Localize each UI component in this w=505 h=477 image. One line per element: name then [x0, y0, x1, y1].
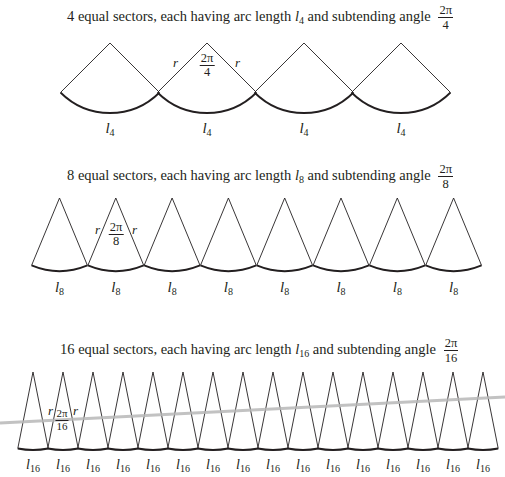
angle-label: 2π8 — [109, 221, 124, 247]
sector-radii — [32, 198, 88, 265]
angle-fraction: 2π8 — [438, 163, 453, 190]
fraction-denominator: 4 — [204, 66, 210, 78]
arc-symbol: l8 — [295, 167, 304, 183]
arc-symbol: l4 — [295, 8, 304, 24]
arc-length-label: l16 — [476, 457, 490, 474]
radius-label-left: r — [48, 403, 53, 419]
arc-length-label: l16 — [326, 457, 340, 474]
caption-middle: and subtending angle — [313, 341, 436, 357]
sector-arc — [426, 265, 482, 271]
sector-radii — [318, 372, 348, 449]
sector-arc — [138, 449, 168, 450]
arc-length-label: l16 — [26, 457, 40, 474]
sector-radii — [168, 372, 198, 449]
fraction-numerator: 2π — [200, 52, 215, 66]
sector-arc — [144, 265, 200, 271]
sector-arc — [352, 92, 451, 113]
angle-label: 2π16 — [55, 408, 68, 432]
arc-subscript: 4 — [299, 15, 304, 26]
angle-label: 2π4 — [200, 52, 215, 78]
sector-arc — [158, 92, 257, 113]
sector-radii — [138, 372, 168, 449]
sector-arc — [288, 449, 318, 450]
sector-radii — [108, 372, 138, 449]
sector-radii — [78, 372, 108, 449]
sector-arc — [369, 265, 425, 271]
sector-arc — [48, 449, 78, 450]
sector-arc — [348, 449, 378, 450]
arc-length-label: l16 — [446, 457, 460, 474]
sector-radii — [348, 372, 378, 449]
radius-label-right: r — [132, 222, 137, 238]
arc-length-label: l16 — [176, 457, 190, 474]
sector-arc — [78, 449, 108, 450]
arc-length-label: l8 — [55, 279, 64, 297]
caption-text: 4 equal sectors, each having arc length — [67, 8, 291, 24]
sector-radii — [426, 198, 482, 265]
fraction-numerator: 2π — [444, 337, 459, 351]
caption-row-2: 8 equal sectors, each having arc length … — [67, 163, 453, 190]
caption-text: 16 equal sectors, each having arc length — [60, 341, 292, 357]
sector-arc — [108, 449, 138, 450]
arc-length-label: l16 — [386, 457, 400, 474]
fraction-denominator: 8 — [443, 177, 449, 190]
arc-length-label: l16 — [356, 457, 370, 474]
sector-radii — [352, 43, 451, 92]
sector-arc — [257, 265, 313, 271]
arc-length-label: l16 — [56, 457, 70, 474]
sector-arc — [468, 449, 498, 450]
arc-length-label: l16 — [236, 457, 250, 474]
arc-length-label: l16 — [206, 457, 220, 474]
sector-arc — [258, 449, 288, 450]
arc-length-label: l4 — [202, 120, 211, 138]
sector-arc — [255, 92, 354, 113]
radius-label-right: r — [235, 55, 240, 71]
sector-radii — [438, 372, 468, 449]
sector-arc — [18, 449, 48, 450]
fraction-numerator: 2π — [109, 221, 124, 235]
caption-text: 8 equal sectors, each having arc length — [67, 167, 291, 183]
arc-length-label: l8 — [449, 279, 458, 297]
radius-label-left: r — [173, 55, 178, 71]
sector-radii — [257, 198, 313, 265]
caption-row-1: 4 equal sectors, each having arc length … — [67, 4, 453, 31]
arc-length-label: l4 — [299, 120, 308, 138]
arc-subscript: 16 — [299, 348, 309, 359]
arc-length-label: l16 — [266, 457, 280, 474]
arc-length-label: l16 — [86, 457, 100, 474]
sector-arc — [408, 449, 438, 450]
sector-radii — [18, 372, 48, 449]
arc-length-label: l4 — [396, 120, 405, 138]
sector-radii — [408, 372, 438, 449]
sector-radii — [378, 372, 408, 449]
arc-length-label: l8 — [336, 279, 345, 297]
arc-length-label: l16 — [116, 457, 130, 474]
fraction-numerator: 2π — [438, 4, 453, 18]
arc-length-label: l8 — [393, 279, 402, 297]
fraction-denominator: 16 — [57, 421, 68, 432]
sector-radii — [313, 198, 369, 265]
radius-label-left: r — [95, 222, 100, 238]
sector-arc — [32, 265, 88, 271]
sector-arc — [318, 449, 348, 450]
caption-middle: and subtending angle — [308, 167, 431, 183]
sector-radii — [200, 198, 256, 265]
arc-length-label: l16 — [146, 457, 160, 474]
sector-radii — [468, 372, 498, 449]
sector-arc — [198, 449, 228, 450]
fraction-denominator: 16 — [445, 351, 458, 364]
sector-arc — [61, 92, 160, 113]
sector-arc — [378, 449, 408, 450]
angle-fraction: 2π16 — [444, 337, 459, 364]
fraction-denominator: 8 — [113, 235, 119, 247]
sector-radii — [61, 43, 160, 92]
sector-radii — [144, 198, 200, 265]
sector-arc — [168, 449, 198, 450]
arc-length-label: l4 — [105, 120, 114, 138]
caption-row-3: 16 equal sectors, each having arc length… — [60, 337, 458, 364]
sector-arc — [313, 265, 369, 271]
arc-length-label: l8 — [224, 279, 233, 297]
sector-arc — [228, 449, 258, 450]
row-4-sectors — [61, 43, 451, 113]
caption-middle: and subtending angle — [308, 8, 431, 24]
